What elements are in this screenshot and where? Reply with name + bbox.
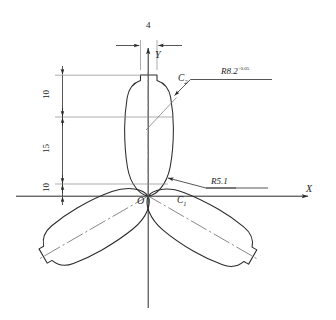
- dim-label-lower-height: 10: [42, 181, 51, 195]
- point-label-c1: C1: [177, 196, 187, 207]
- callout-r51-value: 5.1: [217, 176, 228, 186]
- callout-r82-value: 8.2: [227, 66, 238, 76]
- x-axis-label: X: [306, 184, 312, 194]
- drawing-svg: [0, 0, 336, 320]
- point-label-c2: C2: [178, 74, 188, 85]
- dim-label-upper-height: 10: [42, 88, 51, 102]
- callout-label-r51: R5.1: [211, 177, 228, 186]
- origin-label: O: [137, 196, 144, 206]
- callout-r82-tolerance: +0.05: [238, 66, 250, 71]
- lobe-main-upper: [125, 75, 174, 196]
- technical-drawing-canvas: 4 10 15 10 Y X O C1 C2 R8.2+0.05 R5.1: [0, 0, 336, 320]
- lobe-lower-left: [133, 174, 268, 280]
- y-axis-label: Y: [155, 50, 161, 60]
- leader-r51-slant: [168, 178, 206, 188]
- point-label-c1-sub: 1: [183, 200, 186, 207]
- point-label-c2-sub: 2: [184, 78, 187, 85]
- dim-label-middle-height: 15: [42, 142, 51, 156]
- callout-label-r82: R8.2+0.05: [221, 66, 249, 76]
- radius-line-r82: [146, 98, 177, 131]
- dim-label-top-width: 4: [146, 21, 151, 30]
